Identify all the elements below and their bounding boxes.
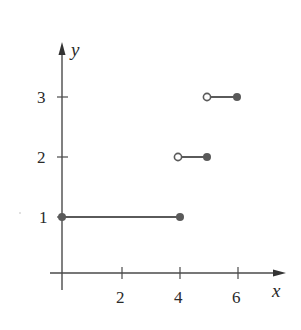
open-endpoint xyxy=(174,153,181,160)
x-tick-label: 6 xyxy=(232,288,241,307)
speck xyxy=(19,212,21,214)
y-tick-label: 3 xyxy=(37,88,46,107)
y-tick-label: 2 xyxy=(37,148,46,167)
x-axis-arrow-icon xyxy=(273,270,286,277)
y-tick-label: 1 xyxy=(39,208,48,227)
open-endpoint xyxy=(203,93,210,100)
x-tick-label: 4 xyxy=(174,288,183,307)
step-function-chart: y x 2 4 6 3 2 1 xyxy=(0,0,301,330)
y-axis-label: y xyxy=(69,39,80,60)
y-axis-arrow-icon xyxy=(59,42,66,55)
x-axis-label: x xyxy=(271,280,281,301)
closed-endpoint xyxy=(58,213,66,221)
closed-endpoint xyxy=(176,213,184,221)
step-segment-3 xyxy=(203,93,241,101)
closed-endpoint xyxy=(233,93,241,101)
x-tick-label: 2 xyxy=(116,288,125,307)
closed-endpoint xyxy=(203,153,211,161)
step-segment-1 xyxy=(58,213,184,221)
step-segment-2 xyxy=(174,153,211,161)
